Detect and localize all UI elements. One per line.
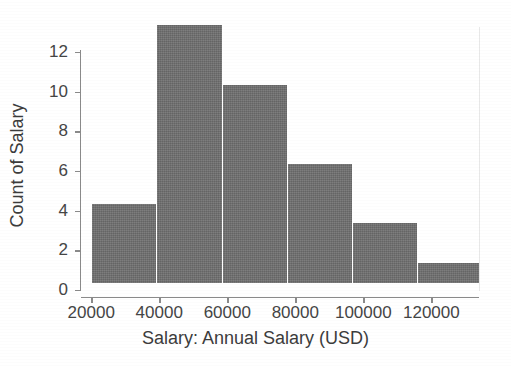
- x-axis-label: Salary: Annual Salary (USD): [0, 328, 511, 349]
- y-tick-mark: [75, 171, 80, 172]
- y-tick-label: 10: [28, 83, 68, 100]
- y-axis-label-container: Count of Salary: [0, 0, 34, 330]
- y-tick-mark: [75, 211, 80, 212]
- y-tick-mark: [75, 92, 80, 93]
- y-tick-label: 6: [28, 162, 68, 179]
- histogram-bar: [223, 85, 288, 284]
- plot-area: [81, 27, 479, 290]
- y-tick-label: 2: [28, 241, 68, 258]
- y-tick-label: 12: [28, 43, 68, 60]
- y-tick-mark: [75, 290, 80, 291]
- y-tick-label: 4: [28, 202, 68, 219]
- histogram-bar: [418, 263, 479, 283]
- y-tick-mark: [75, 250, 80, 251]
- histogram-bar: [157, 25, 223, 283]
- x-axis-spine: [81, 297, 479, 298]
- x-tick-label: 120000: [376, 304, 486, 323]
- y-tick-mark: [75, 131, 80, 132]
- histogram-figure: 024681012 200004000060000800001000001200…: [0, 0, 511, 366]
- y-tick-label: 0: [28, 281, 68, 298]
- y-tick-mark: [75, 52, 80, 53]
- histogram-bar: [353, 223, 418, 283]
- y-axis-label: Count of Salary: [7, 103, 28, 227]
- plot-right-spine: [479, 27, 480, 291]
- y-tick-label: 8: [28, 122, 68, 139]
- histogram-bar: [92, 204, 157, 283]
- histogram-bar: [288, 164, 353, 283]
